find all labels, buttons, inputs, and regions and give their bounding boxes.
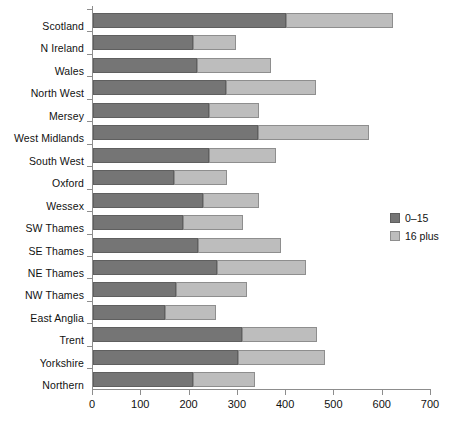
category-label: SE Thames	[0, 244, 84, 258]
y-axis-tick	[87, 144, 92, 145]
x-axis-tick	[237, 390, 238, 395]
category-label: South West	[0, 154, 84, 168]
legend-swatch-age-16-plus	[390, 231, 400, 241]
bar-segment-age-0-15	[93, 58, 197, 73]
x-axis-tick	[333, 390, 334, 395]
y-axis-tick	[87, 368, 92, 369]
bar-segment-age-0-15	[93, 282, 176, 297]
bar-segment-age-16-plus	[217, 260, 306, 275]
category-label: Scotland	[0, 19, 84, 33]
y-axis-tick	[87, 99, 92, 100]
bar-segment-age-16-plus	[183, 215, 242, 230]
bar-segment-age-0-15	[93, 260, 217, 275]
y-axis-tick	[87, 278, 92, 279]
x-axis-tick-label: 300	[217, 398, 257, 410]
category-label: Northern	[0, 378, 84, 392]
bar-segment-age-0-15	[93, 35, 193, 50]
bar-segment-age-16-plus	[258, 125, 369, 140]
x-axis-tick-label: 600	[362, 398, 402, 410]
x-axis-line	[92, 389, 431, 390]
bar-segment-age-16-plus	[165, 305, 216, 320]
bar-segment-age-0-15	[93, 193, 203, 208]
y-axis-tick	[87, 166, 92, 167]
category-label: NW Thames	[0, 288, 84, 302]
category-label: Wales	[0, 64, 84, 78]
bar-segment-age-0-15	[93, 215, 183, 230]
bar-segment-age-16-plus	[174, 170, 227, 185]
y-axis-tick	[87, 121, 92, 122]
category-label: Oxford	[0, 176, 84, 190]
bar-segment-age-16-plus	[242, 327, 317, 342]
bar-segment-age-0-15	[93, 148, 209, 163]
x-axis-tick-label: 100	[120, 398, 160, 410]
x-axis-tick	[92, 390, 93, 395]
y-axis-tick	[87, 323, 92, 324]
bar-segment-age-0-15	[93, 238, 198, 253]
bar-segment-age-16-plus	[198, 238, 281, 253]
bar-segment-age-16-plus	[209, 103, 258, 118]
bar-segment-age-16-plus	[203, 193, 259, 208]
y-axis-tick	[87, 256, 92, 257]
bar-segment-age-0-15	[93, 372, 193, 387]
x-axis-tick-label: 700	[410, 398, 450, 410]
bar-segment-age-0-15	[93, 350, 238, 365]
bar-segment-age-0-15	[93, 305, 165, 320]
y-axis-tick	[87, 346, 92, 347]
category-label: N Ireland	[0, 41, 84, 55]
plot-area: 0100200300400500600700	[92, 6, 430, 389]
category-label: West Midlands	[0, 131, 84, 145]
legend-label: 0–15	[405, 211, 428, 225]
bar-segment-age-16-plus	[286, 13, 393, 28]
bar-segment-age-16-plus	[176, 282, 247, 297]
bar-segment-age-16-plus	[209, 148, 276, 163]
category-label: North West	[0, 86, 84, 100]
y-axis-tick	[87, 234, 92, 235]
category-label: Wessex	[0, 199, 84, 213]
x-axis-tick-label: 500	[313, 398, 353, 410]
y-axis-tick	[87, 189, 92, 190]
category-label: Yorkshire	[0, 356, 84, 370]
x-axis-tick	[189, 390, 190, 395]
category-label: Trent	[0, 333, 84, 347]
bar-segment-age-16-plus	[193, 372, 255, 387]
x-axis-tick	[140, 390, 141, 395]
x-axis-tick	[382, 390, 383, 395]
y-axis-tick	[87, 301, 92, 302]
bar-segment-age-0-15	[93, 125, 258, 140]
bar-segment-age-16-plus	[226, 80, 316, 95]
bar-segment-age-0-15	[93, 13, 286, 28]
bar-segment-age-0-15	[93, 103, 209, 118]
x-axis-tick	[285, 390, 286, 395]
bar-segment-age-0-15	[93, 80, 226, 95]
y-axis-tick	[87, 9, 92, 10]
category-label: SW Thames	[0, 221, 84, 235]
y-axis-tick	[87, 31, 92, 32]
x-axis-tick-label: 0	[72, 398, 112, 410]
category-label: NE Thames	[0, 266, 84, 280]
category-label: East Anglia	[0, 311, 84, 325]
x-axis-tick-label: 200	[169, 398, 209, 410]
y-axis-tick	[87, 54, 92, 55]
x-axis-tick	[430, 390, 431, 395]
y-axis-tick	[87, 211, 92, 212]
legend-label: 16 plus	[405, 229, 439, 243]
stacked-bar-chart: ScotlandN IrelandWalesNorth WestMerseyWe…	[0, 0, 461, 424]
bar-segment-age-0-15	[93, 327, 242, 342]
bar-segment-age-16-plus	[197, 58, 271, 73]
x-axis-tick-label: 400	[265, 398, 305, 410]
y-axis-tick	[87, 76, 92, 77]
category-label: Mersey	[0, 109, 84, 123]
bar-segment-age-0-15	[93, 170, 174, 185]
bar-segment-age-16-plus	[238, 350, 325, 365]
legend-swatch-age-0-15	[390, 213, 400, 223]
bar-segment-age-16-plus	[193, 35, 236, 50]
